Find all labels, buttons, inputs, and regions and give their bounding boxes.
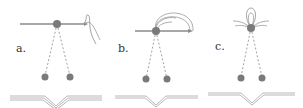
dashed-line-a-right	[57, 24, 70, 76]
base-a	[10, 96, 102, 108]
needle-eye-b	[188, 29, 193, 33]
base-c	[208, 93, 295, 105]
thread-b-arc-1	[155, 13, 193, 31]
panel-c	[208, 8, 295, 105]
bottom-bead-a-left	[42, 74, 49, 81]
dashed-line-b-left	[146, 31, 156, 79]
dashed-line-a-left	[45, 24, 57, 76]
top-bead-a	[53, 20, 61, 28]
diagram-canvas	[0, 0, 303, 108]
bottom-bead-c-left	[238, 75, 245, 82]
bottom-bead-b-left	[143, 76, 150, 83]
top-bead-b	[152, 27, 160, 35]
panel-b	[115, 13, 198, 107]
bottom-bead-b-right	[164, 76, 171, 83]
base-b	[115, 96, 198, 107]
bottom-bead-c-right	[259, 75, 266, 82]
dashed-line-c-right	[251, 28, 262, 77]
bottom-bead-a-right	[67, 74, 74, 81]
thread-a	[84, 15, 96, 44]
top-bead-c	[247, 24, 255, 32]
dashed-line-c-left	[241, 28, 251, 77]
thread-b-arc-2	[156, 17, 190, 31]
dashed-line-b-right	[156, 31, 167, 79]
panel-a	[10, 15, 102, 108]
thread-a-2	[84, 22, 100, 40]
